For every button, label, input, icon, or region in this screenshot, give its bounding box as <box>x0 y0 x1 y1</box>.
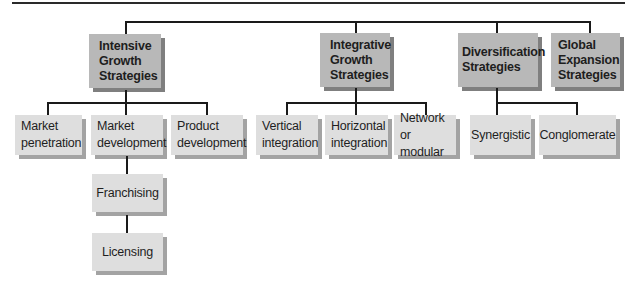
label-line: development <box>97 135 163 152</box>
connector-conglomerate <box>576 102 578 116</box>
label-line: Strategies <box>330 68 390 83</box>
label-line: integration <box>331 135 388 152</box>
connector-intensive-bar <box>47 102 207 104</box>
label-line: Vertical <box>262 118 318 135</box>
label-line: Intensive <box>99 39 161 54</box>
box-market-development: Market development <box>91 115 163 155</box>
label-line: Growth <box>99 54 161 69</box>
label-line: Integrative <box>330 38 390 53</box>
label-line: Strategies <box>558 68 620 83</box>
box-licensing: Licensing <box>92 233 163 271</box>
label-line: Strategies <box>462 60 538 75</box>
box-intensive-growth-strategies: Intensive Growth Strategies <box>89 34 161 88</box>
box-diversification-strategies: Diversification Strategies <box>458 33 538 87</box>
top-rule <box>12 2 625 4</box>
label-line: Diversification <box>462 45 538 60</box>
label-line: Product <box>177 118 243 135</box>
box-integrative-growth-strategies: Integrative Growth Strategies <box>320 33 390 87</box>
label-line: Strategies <box>99 69 161 84</box>
label-line: Market <box>97 118 163 135</box>
box-conglomerate: Conglomerate <box>539 115 616 155</box>
box-franchising: Franchising <box>92 174 163 212</box>
box-synergistic: Synergistic <box>470 115 531 155</box>
connector-root <box>125 21 591 23</box>
label-line: Growth <box>330 53 390 68</box>
label-line: Synergistic <box>471 127 530 144</box>
box-product-development: Product development <box>171 115 243 155</box>
connector-integrative-bar <box>286 102 427 104</box>
label-line: penetration <box>21 135 82 152</box>
box-global-expansion-strategies: Global Expansion Strategies <box>551 33 620 87</box>
label-line: integration <box>262 135 318 152</box>
connector-licensing <box>126 215 128 234</box>
strategy-tree-diagram: Intensive Growth Strategies Integrative … <box>0 0 638 293</box>
box-horizontal-integration: Horizontal integration <box>325 115 388 155</box>
label-line: Horizontal <box>331 118 388 135</box>
connector-intensive <box>125 21 127 35</box>
box-network-or-modular: Network or modular <box>394 115 456 155</box>
label-line: Global <box>558 38 620 53</box>
connector-market-penetration <box>47 102 49 116</box>
connector-product-development <box>206 102 208 116</box>
connector-diversification-bar <box>496 102 578 104</box>
box-market-penetration: Market penetration <box>15 115 82 155</box>
label-line: Conglomerate <box>539 127 615 144</box>
connector-vertical <box>286 102 288 116</box>
label-line: or modular <box>400 127 456 161</box>
label-line: Licensing <box>102 244 153 261</box>
label-line: Network <box>400 110 456 127</box>
label-line: Market <box>21 118 82 135</box>
label-line: Franchising <box>96 185 158 202</box>
label-line: development <box>177 135 243 152</box>
connector-franchising <box>126 156 128 175</box>
label-line: Expansion <box>558 53 620 68</box>
box-vertical-integration: Vertical integration <box>256 115 318 155</box>
